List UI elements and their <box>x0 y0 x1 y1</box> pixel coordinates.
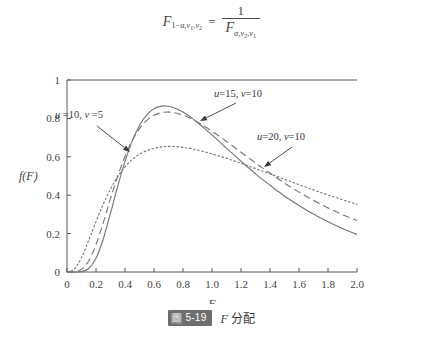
caption-title: F分配 <box>221 309 255 327</box>
u-value: =15, <box>219 88 241 99</box>
x-tick-label: 0.4 <box>118 278 132 290</box>
curve-u20-v10 <box>67 106 357 272</box>
y-tick-label: 0.4 <box>46 189 60 201</box>
formula-denominator-symbol: F <box>226 20 235 35</box>
x-tick-label: 1.4 <box>263 278 277 290</box>
formula-fraction: 1 Fα,ν2,ν1 <box>222 4 261 39</box>
formula-denominator: Fα,ν2,ν1 <box>222 19 261 39</box>
x-tick-label: 1.2 <box>234 278 248 290</box>
x-tick-label: 0.2 <box>89 278 103 290</box>
caption-badge: 圖5-19 <box>168 310 212 326</box>
y-axis-title: f(F) <box>19 169 38 183</box>
x-tick-label: 1.6 <box>292 278 306 290</box>
formula-equals: = <box>208 14 215 29</box>
caption-badge-glyph: 圖 <box>171 313 182 324</box>
caption-symbol: F <box>221 312 228 326</box>
u-value: =20, <box>262 131 284 142</box>
formula-lhs-subscript: 1−α,ν1,ν2 <box>171 22 202 31</box>
x-axis-tick-labels: 00.20.40.60.81.01.21.41.61.82.0 <box>64 278 364 290</box>
v-value: =10 <box>246 88 262 99</box>
x-tick-label: 1.0 <box>205 278 219 290</box>
formula-lhs-symbol: F <box>163 14 172 29</box>
axis-frame <box>67 80 357 272</box>
curve-u10-v5 <box>67 146 357 272</box>
chart-annotations: u =10, v =5u=15, v=10u=20, v=10 <box>55 88 305 167</box>
x-tick-label: 0.8 <box>176 278 190 290</box>
x-axis-ticks <box>67 268 357 272</box>
y-tick-label: 0.6 <box>46 151 60 163</box>
u-value: =10, <box>60 109 84 120</box>
formula-f-quantile-reciprocal: F1−α,ν1,ν2= 1 Fα,ν2,ν1 <box>0 4 423 39</box>
chart-svg: 00.20.40.60.81 00.20.40.60.81.01.21.41.6… <box>0 64 423 304</box>
curve-u15-v10 <box>67 112 357 272</box>
chart-curves <box>67 106 357 272</box>
annot-u20-v10-arrow-head <box>264 161 271 167</box>
y-tick-label: 0.2 <box>46 228 60 240</box>
annot-u15-v10-leader-line <box>206 103 236 118</box>
annot-u10-v5-label: u =10, v =5 <box>55 109 103 120</box>
formula-denominator-subscript: α,ν2,ν1 <box>234 30 256 39</box>
formula-den-nu1-index: 1 <box>253 33 256 39</box>
x-tick-label: 1.8 <box>321 278 335 290</box>
y-axis-tick-labels: 00.20.40.60.81 <box>46 74 60 278</box>
formula-numerator: 1 <box>222 4 261 18</box>
annot-u20-v10-label: u=20, v=10 <box>257 131 305 142</box>
x-tick-label: 0 <box>64 278 70 290</box>
x-tick-label: 0.6 <box>147 278 161 290</box>
formula-sub-one-minus-alpha: 1−α, <box>171 21 186 30</box>
figure-caption: 圖5-19F分配 <box>0 308 423 327</box>
v-value: =10 <box>289 131 305 142</box>
x-tick-label: 2.0 <box>350 278 364 290</box>
formula-sub-nu2-index: 2 <box>199 25 202 31</box>
chart-plot-area: 00.20.40.60.81 00.20.40.60.81.01.21.41.6… <box>0 64 423 304</box>
y-tick-label: 1 <box>55 74 61 86</box>
formula-expression: F1−α,ν1,ν2= 1 Fα,ν2,ν1 <box>163 4 260 39</box>
annot-u15-v10-label: u=15, v=10 <box>214 88 262 99</box>
caption-badge-number: 5-19 <box>185 312 206 323</box>
x-axis-title: F <box>207 297 216 304</box>
annot-u10-v5-leader-line <box>97 126 125 148</box>
annot-u15-v10-arrow-head <box>200 115 207 121</box>
annot-u20-v10-leader-line <box>270 147 292 163</box>
caption-text: 分配 <box>231 312 255 326</box>
v-value: =5 <box>89 109 103 120</box>
figure-f-distribution: F1−α,ν1,ν2= 1 Fα,ν2,ν1 00.20.40.60.81 00… <box>0 0 423 344</box>
y-tick-label: 0 <box>55 266 61 278</box>
